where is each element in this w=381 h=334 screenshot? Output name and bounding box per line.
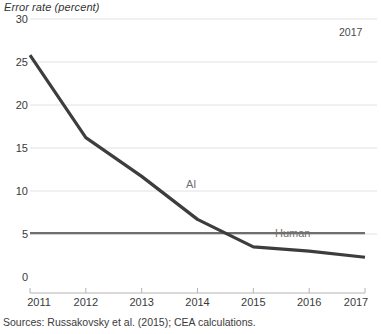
y-tick-label: 30 (0, 13, 28, 25)
y-tick-label: 5 (0, 228, 28, 240)
chart-container: Error rate (percent) 2017 051015202530 2… (0, 0, 381, 334)
x-tick-label: 2014 (185, 296, 209, 308)
y-tick-label: 25 (0, 56, 28, 68)
plot-area (0, 0, 381, 334)
source-note: Sources: Russakovsky et al. (2015); CEA … (3, 316, 256, 328)
series-label-ai: AI (186, 178, 196, 190)
x-tick-label: 2016 (297, 296, 321, 308)
y-tick-label: 10 (0, 185, 28, 197)
x-tick-label: 2012 (74, 296, 98, 308)
y-tick-label: 20 (0, 99, 28, 111)
x-tick-label: 2013 (129, 296, 153, 308)
y-tick-label: 0 (0, 271, 28, 283)
x-tick-label: 2015 (241, 296, 265, 308)
x-tick-label: 2011 (27, 296, 51, 308)
line-chart-svg (0, 0, 381, 334)
y-tick-label: 15 (0, 142, 28, 154)
series-label-human: Human (275, 227, 310, 239)
x-tick-label: 2017 (344, 296, 368, 308)
series-line-ai (30, 55, 365, 257)
